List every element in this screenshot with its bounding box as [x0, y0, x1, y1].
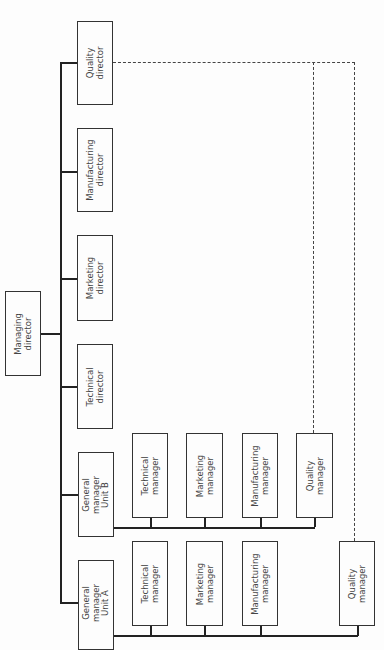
quality-dotted-to-unit-b: [313, 62, 314, 433]
unit-a-tech-drop: [150, 626, 152, 635]
gmb-connector: [60, 494, 78, 496]
gma-connector: [60, 602, 78, 604]
marketing-director-label: Marketing director: [86, 257, 105, 299]
unit-a-manufacturing-manager: Manufacturing manager: [242, 541, 278, 626]
unit-a-quality-label: Quality manager: [348, 564, 367, 602]
quality-dotted-horizontal: [113, 62, 355, 63]
unit-a-technical-label: Technical manager: [141, 564, 160, 603]
manufacturing-director-label: Manufacturing director: [86, 139, 105, 201]
unit-b-mfg-drop: [260, 518, 262, 527]
unit-a-technical-manager: Technical manager: [132, 541, 168, 626]
technical-director-box: Technical director: [77, 344, 113, 429]
md-connector: [41, 333, 61, 335]
unit-b-tech-drop: [150, 518, 152, 527]
unit-b-quality-manager: Quality manager: [296, 433, 333, 518]
gm-unit-a-box: General manager Unit A: [78, 560, 114, 650]
unit-b-qm-drop: [314, 518, 316, 527]
gm-unit-b-label: General manager Unit B: [82, 475, 111, 513]
mfd-connector: [60, 171, 77, 173]
qd-connector: [60, 62, 77, 64]
managing-director-label: Managing director: [14, 313, 33, 355]
technical-director-label: Technical director: [86, 367, 105, 406]
quality-director-box: Quality director: [77, 21, 113, 105]
unit-a-marketing-manager: Marketing manager: [186, 541, 223, 626]
quality-director-label: Quality director: [86, 47, 105, 80]
gm-unit-b-box: General manager Unit B: [78, 452, 114, 537]
mkd-connector: [60, 278, 77, 280]
unit-a-mfg-drop: [260, 626, 262, 635]
unit-a-quality-manager: Quality manager: [339, 541, 375, 626]
unit-b-mkt-drop: [204, 518, 206, 527]
quality-dotted-to-unit-a: [354, 62, 355, 541]
managing-director-box: Managing director: [5, 291, 41, 376]
marketing-director-box: Marketing director: [77, 235, 113, 321]
td-connector: [60, 386, 77, 388]
unit-b-bus: [114, 527, 315, 529]
unit-b-technical-label: Technical manager: [141, 456, 160, 495]
gm-unit-a-label: General manager Unit A: [82, 584, 111, 622]
unit-a-qm-drop: [357, 626, 359, 636]
unit-b-marketing-manager: Marketing manager: [186, 433, 223, 518]
manufacturing-director-box: Manufacturing director: [77, 128, 113, 212]
unit-b-quality-label: Quality manager: [305, 456, 324, 494]
unit-b-technical-manager: Technical manager: [132, 433, 168, 518]
unit-a-marketing-label: Marketing manager: [195, 562, 214, 604]
unit-a-bus: [114, 635, 358, 637]
unit-b-marketing-label: Marketing manager: [195, 454, 214, 496]
unit-b-manufacturing-label: Manufacturing manager: [251, 445, 270, 507]
unit-b-manufacturing-manager: Manufacturing manager: [242, 433, 278, 518]
unit-a-manufacturing-label: Manufacturing manager: [251, 553, 270, 615]
unit-a-mkt-drop: [204, 626, 206, 635]
